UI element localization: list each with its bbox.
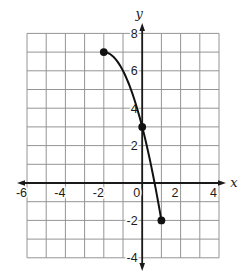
x-tick-label: 2	[172, 186, 179, 200]
y-axis-arrow-bottom	[139, 263, 145, 271]
curve-point	[138, 123, 146, 131]
y-axis-arrow-top	[139, 23, 145, 31]
x-tick-label: -4	[54, 186, 65, 200]
x-tick-label: -2	[93, 186, 104, 200]
y-tick-label: 2	[131, 139, 138, 153]
function-graph-svg: -6-4-20248642-2-4xy	[0, 0, 246, 277]
y-tick-label: 6	[131, 64, 138, 78]
y-tick-label: -2	[127, 214, 138, 228]
y-axis-letter: y	[135, 6, 144, 21]
curve-point	[100, 48, 108, 56]
function-graph-figure: -6-4-20248642-2-4xy	[0, 0, 246, 277]
y-tick-label: 8	[131, 27, 138, 41]
x-tick-label: 4	[210, 186, 217, 200]
x-tick-label: 0	[133, 186, 140, 200]
y-tick-label: -4	[127, 251, 138, 265]
curve-point	[158, 217, 166, 225]
x-axis-letter: x	[230, 175, 238, 190]
grid-lines	[27, 33, 219, 257]
x-axis-arrow-right	[218, 180, 226, 186]
x-tick-label: -6	[16, 186, 27, 200]
